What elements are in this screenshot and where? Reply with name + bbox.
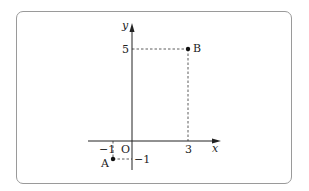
y-axis-arrow-icon: [130, 23, 135, 32]
tick-y-5: 5: [122, 43, 129, 56]
tick-x-3: 3: [185, 143, 192, 156]
y-axis-label: y: [121, 19, 129, 32]
point-a-label: A: [100, 157, 110, 170]
tick-x-neg1: −1: [99, 143, 115, 156]
x-axis-label: x: [212, 142, 219, 155]
point-a: [111, 157, 115, 161]
point-b-label: B: [193, 42, 201, 55]
point-b: [186, 47, 190, 51]
origin-label: O: [121, 143, 130, 156]
coordinate-plane: y x O 5 3 −1 −1 B A: [0, 0, 309, 191]
tick-y-neg1: −1: [134, 153, 150, 166]
